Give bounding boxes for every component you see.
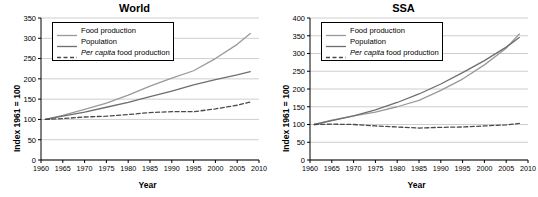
y-axis-label-world: Index 1961 = 100 [12,85,22,152]
svg-text:1965: 1965 [324,164,340,173]
svg-text:1970: 1970 [346,164,362,173]
svg-text:2000: 2000 [207,164,223,173]
svg-text:2005: 2005 [229,164,245,173]
y-axis-label-ssa: Index 1961 = 100 [281,85,291,152]
legend-item: Population [325,36,439,47]
chart-panel-world: World 0501001502002503003501960196519701… [0,0,269,197]
svg-text:250: 250 [23,54,36,63]
figure: World 0501001502002503003501960196519701… [0,0,538,197]
svg-text:1980: 1980 [120,164,136,173]
svg-text:1965: 1965 [55,164,71,173]
svg-text:300: 300 [23,34,36,43]
svg-text:1985: 1985 [142,164,158,173]
svg-text:50: 50 [28,136,36,145]
legend-item: Food production [325,25,439,36]
svg-text:100: 100 [23,115,36,124]
svg-text:1985: 1985 [411,164,427,173]
svg-text:300: 300 [292,49,305,58]
svg-text:1995: 1995 [455,164,471,173]
svg-text:2000: 2000 [476,164,492,173]
svg-text:1970: 1970 [77,164,93,173]
svg-text:1980: 1980 [389,164,405,173]
legend-key-icon [325,26,347,35]
svg-text:1975: 1975 [98,164,114,173]
legend-key-icon [56,26,78,35]
legend-label: Per capita food production [350,48,439,57]
svg-text:2005: 2005 [498,164,514,173]
legend-label: Food production [81,26,136,35]
legend-item: Food production [56,25,170,36]
svg-text:1990: 1990 [433,164,449,173]
x-axis-label-world: Year [35,180,260,190]
svg-text:1960: 1960 [302,164,318,173]
legend-item: Per capita food production [325,47,439,58]
svg-text:1960: 1960 [33,164,49,173]
svg-text:2010: 2010 [251,164,267,173]
legend-label: Population [350,37,386,46]
svg-text:350: 350 [23,14,36,23]
svg-text:1975: 1975 [367,164,383,173]
svg-text:150: 150 [292,103,305,112]
legend-label: Population [81,37,117,46]
svg-text:250: 250 [292,67,305,76]
legend-label: Food production [350,26,405,35]
svg-text:2010: 2010 [520,164,536,173]
legend-world: Food productionPopulationPer capita food… [52,22,174,61]
svg-text:150: 150 [23,95,36,104]
legend-key-icon [56,37,78,46]
svg-text:50: 50 [297,138,305,147]
x-axis-label-ssa: Year [304,180,529,190]
legend-key-icon [325,37,347,46]
legend-label: Per capita food production [81,48,170,57]
svg-text:200: 200 [292,85,305,94]
legend-ssa: Food productionPopulationPer capita food… [321,22,443,61]
svg-text:1995: 1995 [186,164,202,173]
svg-text:400: 400 [292,14,305,23]
legend-key-icon [56,48,78,57]
legend-key-icon [325,48,347,57]
svg-text:200: 200 [23,75,36,84]
svg-text:100: 100 [292,120,305,129]
svg-text:1990: 1990 [164,164,180,173]
legend-item: Per capita food production [56,47,170,58]
legend-item: Population [56,36,170,47]
svg-text:350: 350 [292,32,305,41]
chart-panel-ssa: SSA 050100150200250300350400196019651970… [269,0,538,197]
